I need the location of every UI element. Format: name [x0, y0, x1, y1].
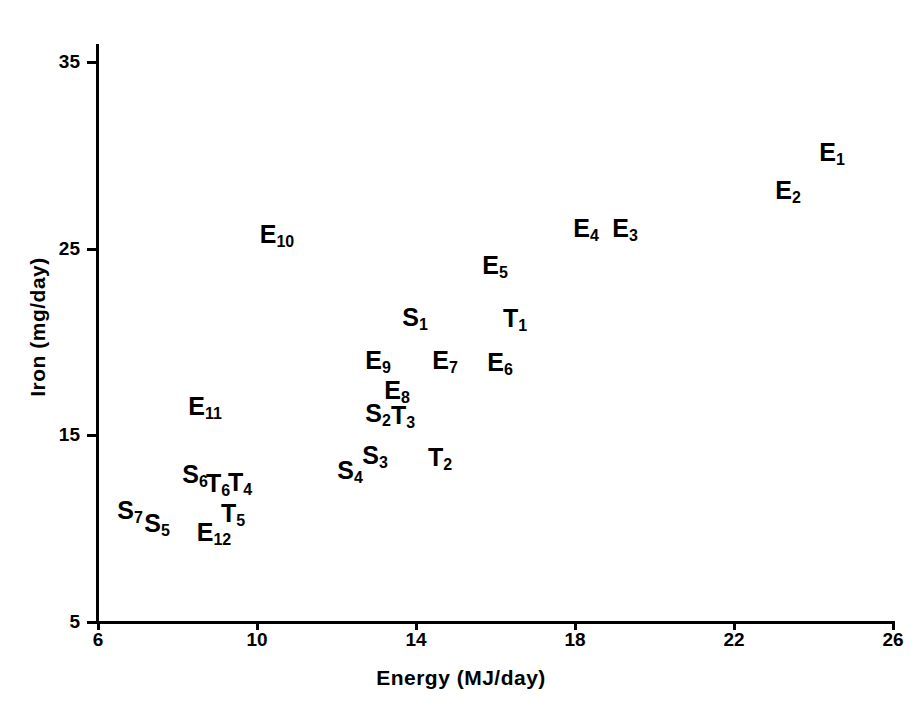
- y-axis-title: Iron (mg/day): [26, 197, 50, 457]
- data-point-letter: S: [365, 399, 382, 427]
- data-point-letter: T: [206, 469, 221, 497]
- data-point-index: 11: [205, 405, 222, 422]
- data-point-index: 1: [419, 316, 428, 333]
- data-point-index: 1: [518, 317, 527, 334]
- y-tick-25: [87, 248, 96, 251]
- data-point-E2: E2: [775, 178, 801, 203]
- y-tick-15: [87, 434, 96, 437]
- scatter-plot: 3525155 61014182226 E1E2E3E4E5E6E7E8E9E1…: [0, 0, 922, 715]
- data-point-T2: T2: [428, 445, 452, 470]
- data-point-index: 4: [354, 469, 363, 486]
- data-point-letter: S: [182, 460, 199, 488]
- data-point-E11: E11: [188, 394, 222, 419]
- data-point-E8: E8: [384, 378, 410, 403]
- data-point-letter: E: [819, 138, 836, 166]
- data-point-T3: T3: [391, 403, 415, 428]
- y-tick-label-25: 25: [46, 239, 80, 258]
- data-point-index: 4: [590, 227, 599, 244]
- y-tick-5: [87, 621, 96, 624]
- data-point-index: 6: [504, 361, 513, 378]
- data-point-index: 1: [836, 151, 845, 168]
- data-point-index: 3: [379, 454, 388, 471]
- data-point-E3: E3: [612, 216, 638, 241]
- data-point-letter: E: [482, 251, 499, 279]
- data-point-letter: T: [391, 401, 406, 429]
- data-point-letter: S: [362, 441, 379, 469]
- data-point-letter: E: [365, 346, 382, 374]
- data-point-letter: E: [612, 214, 629, 242]
- data-point-index: 10: [276, 233, 294, 250]
- data-point-letter: E: [573, 214, 590, 242]
- data-point-S5: S5: [144, 511, 170, 536]
- x-tick-label-10: 10: [237, 630, 277, 649]
- x-tick-label-26: 26: [873, 630, 913, 649]
- data-point-index: 7: [449, 359, 458, 376]
- data-point-index: 3: [406, 414, 415, 431]
- data-point-letter: E: [188, 392, 205, 420]
- data-point-S1: S1: [402, 305, 428, 330]
- data-point-index: 5: [236, 512, 245, 529]
- data-point-index: 3: [629, 227, 638, 244]
- data-point-index: 2: [443, 456, 452, 473]
- data-point-letter: T: [221, 499, 236, 527]
- data-point-S3: S3: [362, 443, 388, 468]
- data-point-index: 12: [213, 531, 231, 548]
- data-point-T1: T1: [503, 306, 527, 331]
- data-point-T6: T6: [206, 471, 230, 496]
- data-point-letter: T: [228, 468, 243, 496]
- data-point-E10: E10: [260, 222, 294, 247]
- data-point-S2: S2: [365, 401, 391, 426]
- data-point-letter: E: [432, 346, 449, 374]
- data-point-E6: E6: [487, 350, 513, 375]
- data-point-letter: E: [775, 176, 792, 204]
- data-point-letter: T: [503, 304, 518, 332]
- y-tick-35: [87, 61, 96, 64]
- data-point-S6: S6: [182, 462, 208, 487]
- data-point-letter: E: [260, 220, 277, 248]
- data-point-index: 7: [134, 509, 143, 526]
- data-point-letter: S: [117, 496, 134, 524]
- data-point-letter: S: [337, 456, 354, 484]
- data-point-T4: T4: [228, 470, 252, 495]
- data-point-E4: E4: [573, 216, 599, 241]
- data-point-letter: S: [144, 509, 161, 537]
- y-tick-label-35: 35: [46, 52, 80, 71]
- data-point-S7: S7: [117, 498, 143, 523]
- y-tick-label-5: 5: [46, 612, 80, 631]
- x-tick-label-6: 6: [78, 630, 118, 649]
- y-axis-line: [96, 44, 99, 624]
- data-point-letter: T: [428, 443, 443, 471]
- data-point-letter: S: [402, 303, 419, 331]
- data-point-letter: E: [384, 376, 401, 404]
- data-point-index: 6: [221, 482, 230, 499]
- data-point-E7: E7: [432, 348, 458, 373]
- data-point-letter: E: [487, 348, 504, 376]
- data-point-E9: E9: [365, 348, 391, 373]
- data-point-E5: E5: [482, 253, 508, 278]
- data-point-index: 2: [382, 412, 391, 429]
- data-point-index: 5: [161, 522, 170, 539]
- data-point-index: 9: [382, 359, 391, 376]
- data-point-index: 4: [243, 481, 252, 498]
- x-axis-line: [96, 621, 893, 624]
- y-tick-label-15: 15: [46, 425, 80, 444]
- x-axis-title: Energy (MJ/day): [0, 666, 922, 690]
- data-point-index: 5: [499, 264, 508, 281]
- data-point-index: 2: [792, 189, 801, 206]
- x-tick-label-18: 18: [555, 630, 595, 649]
- x-tick-label-14: 14: [396, 630, 436, 649]
- x-tick-label-22: 22: [714, 630, 754, 649]
- data-point-E1: E1: [819, 140, 845, 165]
- data-point-T5: T5: [221, 501, 245, 526]
- data-point-S4: S4: [337, 458, 363, 483]
- data-point-letter: E: [197, 518, 214, 546]
